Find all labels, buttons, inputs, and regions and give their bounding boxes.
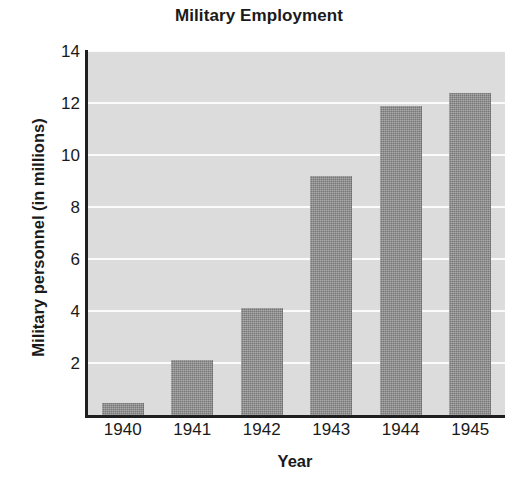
gridline-4 [88,310,505,312]
y-tick-label: 2 [34,355,80,372]
x-axis-tick-labels: 194019411942194319441945 [85,420,505,448]
bar-1945[interactable] [449,93,491,415]
x-axis-title: Year [85,452,505,471]
y-tick-label: 8 [34,199,80,216]
bar-1944[interactable] [380,106,422,415]
gridline-8 [88,206,505,208]
gridline-10 [88,154,505,156]
bar-chart-figure: Military Employment Military personnel (… [0,0,518,481]
bar-1942[interactable] [241,308,283,415]
y-tick-label: 4 [34,303,80,320]
bar-1940[interactable] [102,403,144,415]
gridline-14 [88,51,505,52]
y-tick-label: 12 [34,95,80,112]
gridline-2 [88,362,505,364]
x-axis-line [85,415,505,418]
plot-area [88,51,505,415]
gridline-6 [88,258,505,260]
x-tick-label-1944: 1944 [382,420,420,440]
bar-1941[interactable] [171,360,213,415]
x-tick-label-1943: 1943 [312,420,350,440]
y-tick-label: 6 [34,251,80,268]
y-axis-tick-labels: 2468101214 [30,0,80,481]
x-tick-label-1940: 1940 [104,420,142,440]
x-tick-label-1945: 1945 [451,420,489,440]
y-tick-label: 10 [34,147,80,164]
bar-1943[interactable] [310,176,352,415]
x-tick-label-1941: 1941 [173,420,211,440]
y-tick-label: 14 [34,43,80,60]
gridline-12 [88,102,505,104]
y-axis-line [85,50,88,417]
x-tick-label-1942: 1942 [243,420,281,440]
